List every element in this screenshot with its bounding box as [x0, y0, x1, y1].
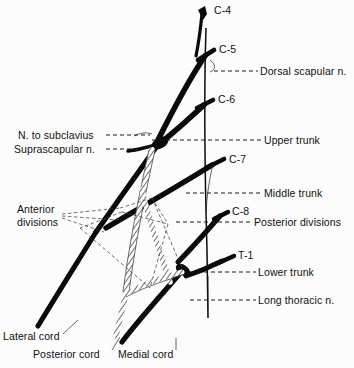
label-dorsal-scapular-n: Dorsal scapular n.	[260, 65, 346, 77]
label-posterior-divisions: Posterior divisions	[254, 216, 341, 228]
label-middle-trunk: Middle trunk	[264, 187, 323, 199]
root-label-t1: T-1	[238, 249, 254, 261]
label-long-thoracic-n: Long thoracic n.	[258, 294, 334, 306]
label-lower-trunk: Lower trunk	[258, 266, 315, 278]
root-label-c4: C-4	[214, 4, 231, 16]
label-upper-trunk: Upper trunk	[264, 134, 321, 146]
root-label-c6: C-6	[218, 93, 235, 105]
root-label-c5: C-5	[219, 43, 236, 55]
label-n-to-subclavius: N. to subclavius	[18, 129, 94, 141]
brachial-plexus-diagram: C-4 C-5 C-6 C-7 C-8 T-1 Dorsal scapular …	[0, 0, 354, 368]
label-anterior-divisions-line2: divisions	[17, 216, 58, 228]
label-anterior-divisions-line1: Anterior	[17, 203, 55, 215]
root-label-c7: C-7	[229, 153, 246, 165]
label-suprascapular-n: Suprascapular n.	[14, 143, 95, 155]
root-label-c8: C-8	[232, 205, 249, 217]
label-lateral-cord: Lateral cord	[3, 330, 60, 342]
label-posterior-cord: Posterior cord	[33, 348, 100, 360]
label-medial-cord: Medial cord	[118, 348, 173, 360]
